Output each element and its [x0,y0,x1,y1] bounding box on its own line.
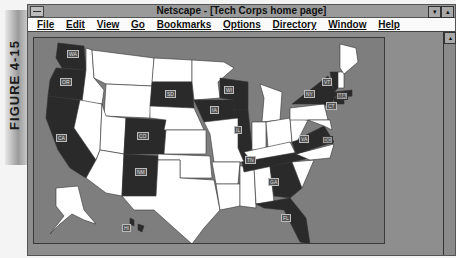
label-va[interactable]: VA [299,135,309,143]
label-ia[interactable]: IA [210,106,219,114]
vertical-scrollbar[interactable]: ▴ [443,32,455,255]
label-co[interactable]: CO [137,132,149,140]
label-ma[interactable]: MA [336,92,348,100]
state-wy [104,84,152,118]
state-mt [92,50,154,86]
menu-go[interactable]: Go [131,19,145,30]
label-il[interactable]: IL [234,126,242,134]
label-wa[interactable]: WA [67,50,79,58]
menu-view[interactable]: View [97,19,120,30]
state-nd [152,58,192,82]
scroll-up-arrow-icon[interactable]: ▴ [444,32,456,44]
figure-tab: FIGURE 4-15 [5,10,27,165]
label-dc[interactable]: DC [322,136,333,144]
state-ms [240,166,256,208]
state-pa [290,104,328,120]
menu-bookmarks[interactable]: Bookmarks [157,19,211,30]
menu-directory[interactable]: Directory [273,19,317,30]
label-ga[interactable]: GA [268,178,279,186]
label-vt[interactable]: VT [322,78,332,86]
state-la [216,184,240,210]
state-ar [212,162,240,184]
label-ca[interactable]: CA [56,134,67,142]
window-title: Netscape - [Tech Corps home page] [28,5,455,17]
label-fl[interactable]: FL [281,214,291,222]
title-bar: Netscape - [Tech Corps home page] ▾ ▴ [28,5,455,18]
label-or[interactable]: OR [60,78,72,86]
label-nm[interactable]: NM [135,168,147,176]
label-tn[interactable]: TN [245,156,256,164]
state-hi-2 [138,224,144,232]
state-mi [260,84,282,122]
state-mo [204,118,244,162]
menu-file[interactable]: File [37,19,54,30]
state-me [340,44,358,74]
us-map[interactable]: WA OR CA SD CO NM IA WI IL TN GA FL VA D… [33,37,385,244]
label-wi[interactable]: WI [224,86,234,94]
state-ak [50,186,96,234]
state-in [252,122,266,150]
state-ks [164,130,206,154]
label-ct[interactable]: CT [326,102,337,110]
state-nh [338,72,344,88]
menu-bar: File Edit View Go Bookmarks Options Dire… [28,18,455,32]
label-sd[interactable]: SD [165,90,176,98]
minimize-button[interactable]: ▾ [428,6,441,18]
menu-edit[interactable]: Edit [66,19,85,30]
menu-options[interactable]: Options [223,19,261,30]
page-content: WA OR CA SD CO NM IA WI IL TN GA FL VA D… [28,32,443,255]
menu-help[interactable]: Help [378,19,400,30]
figure-label: FIGURE 4-15 [5,15,25,155]
menu-window[interactable]: Window [328,19,366,30]
browser-window: Netscape - [Tech Corps home page] ▾ ▴ Fi… [27,4,456,256]
label-hi[interactable]: HI [122,224,131,232]
maximize-button[interactable]: ▴ [441,6,454,18]
label-ny[interactable]: NY [304,90,315,98]
